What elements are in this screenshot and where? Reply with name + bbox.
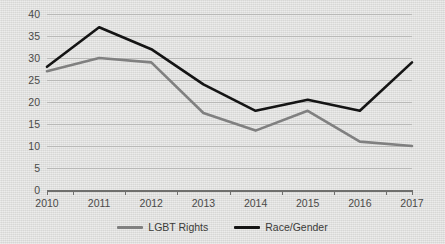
series-line-race-gender xyxy=(47,27,412,111)
y-axis-tick-label: 0 xyxy=(0,184,40,196)
legend-item[interactable]: Race/Gender xyxy=(234,221,327,233)
x-axis-tick-label: 2010 xyxy=(35,197,58,209)
x-axis-tick-label: 2017 xyxy=(400,197,423,209)
y-axis-tick-label: 35 xyxy=(0,30,40,42)
x-axis-tick xyxy=(230,190,231,195)
series-layer xyxy=(47,14,412,190)
y-axis-tick-label: 30 xyxy=(0,52,40,64)
series-line-lgbt-rights xyxy=(47,58,412,146)
x-axis-tick xyxy=(125,190,126,195)
x-axis-tick xyxy=(412,190,413,195)
x-axis-tick xyxy=(282,190,283,195)
x-axis-tick-label: 2012 xyxy=(140,197,163,209)
x-axis-tick xyxy=(47,190,48,195)
y-axis-tick-label: 20 xyxy=(0,96,40,108)
legend-item[interactable]: LGBT Rights xyxy=(117,221,208,233)
y-axis-tick-label: 25 xyxy=(0,74,40,86)
x-axis-tick xyxy=(73,190,74,195)
y-axis-tick-label: 5 xyxy=(0,162,40,174)
y-axis-tick-label: 40 xyxy=(0,8,40,20)
x-axis-tick-label: 2013 xyxy=(192,197,215,209)
x-axis-tick-label: 2011 xyxy=(88,197,111,209)
x-axis-tick xyxy=(386,190,387,195)
x-axis-tick xyxy=(334,190,335,195)
legend-swatch-icon xyxy=(117,226,143,229)
chart-legend: LGBT RightsRace/Gender xyxy=(0,221,445,233)
x-axis-tick-label: 2015 xyxy=(296,197,319,209)
y-axis-tick-label: 15 xyxy=(0,118,40,130)
y-axis-tick-label: 10 xyxy=(0,140,40,152)
x-axis-tick xyxy=(177,190,178,195)
legend-label: LGBT Rights xyxy=(148,221,208,233)
legend-label: Race/Gender xyxy=(265,221,327,233)
plot-area xyxy=(47,14,412,190)
x-axis-tick-label: 2016 xyxy=(348,197,371,209)
line-chart: 0510152025303540 20102011201220132014201… xyxy=(0,0,445,244)
legend-swatch-icon xyxy=(234,226,260,229)
x-axis-tick-label: 2014 xyxy=(244,197,267,209)
